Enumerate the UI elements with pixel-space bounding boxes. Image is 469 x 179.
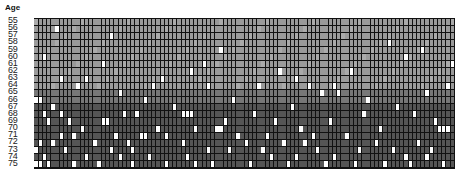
grid-cell [261, 54, 264, 60]
grid-cell [165, 118, 168, 124]
grid-cell [144, 83, 147, 89]
grid-cell [388, 61, 391, 67]
grid-row-age-58 [34, 39, 455, 46]
grid-cell [39, 111, 42, 117]
grid-cell [337, 161, 340, 167]
grid-cell [375, 161, 378, 167]
grid-cell [333, 111, 336, 117]
grid-cell [119, 19, 122, 25]
grid-cell [228, 104, 231, 110]
grid-cell [282, 83, 285, 89]
grid-cell [291, 19, 294, 25]
grid-cell [451, 33, 454, 39]
grid-cell [110, 140, 113, 146]
grid-cell [76, 133, 79, 139]
grid-cell [278, 126, 281, 132]
grid-cell [51, 161, 54, 167]
grid-cell [274, 161, 277, 167]
highlight-cell [354, 161, 357, 167]
grid-cell [249, 47, 252, 53]
grid-cell [375, 133, 378, 139]
grid-cell [85, 147, 88, 153]
grid-cell [228, 161, 231, 167]
grid-cell [392, 68, 395, 74]
grid-cell [64, 133, 67, 139]
grid-cell [257, 154, 260, 160]
grid-cell [261, 126, 264, 132]
grid-cell [215, 47, 218, 53]
highlight-cell [39, 161, 42, 167]
grid-cell [148, 147, 151, 153]
grid-cell [308, 154, 311, 160]
grid-cell [81, 19, 84, 25]
grid-cell [207, 26, 210, 32]
grid-cell [198, 104, 201, 110]
highlight-cell [358, 147, 361, 153]
grid-cell [60, 104, 63, 110]
grid-cell [404, 118, 407, 124]
highlight-cell [417, 140, 420, 146]
grid-cell [282, 111, 285, 117]
grid-cell [245, 111, 248, 117]
grid-cell [312, 118, 315, 124]
grid-cell [383, 133, 386, 139]
grid-cell [51, 83, 54, 89]
grid-cell [97, 126, 100, 132]
grid-cell [215, 140, 218, 146]
grid-cell [358, 90, 361, 96]
grid-cell [303, 33, 306, 39]
grid-cell [55, 68, 58, 74]
grid-cell [253, 47, 256, 53]
grid-cell [400, 40, 403, 46]
grid-cell [68, 111, 71, 117]
grid-cell [43, 19, 46, 25]
grid-cell [341, 111, 344, 117]
highlight-cell [43, 154, 46, 160]
highlight-cell [291, 104, 294, 110]
grid-cell [404, 47, 407, 53]
grid-cell [76, 118, 79, 124]
grid-cell [215, 40, 218, 46]
grid-cell [392, 90, 395, 96]
grid-cell [152, 104, 155, 110]
grid-cell [76, 90, 79, 96]
grid-cell [287, 26, 290, 32]
grid-cell [177, 90, 180, 96]
grid-cell [135, 40, 138, 46]
grid-cell [110, 54, 113, 60]
grid-cell [375, 83, 378, 89]
grid-cell [228, 97, 231, 103]
grid-cell [169, 104, 172, 110]
grid-cell [127, 61, 130, 67]
grid-cell [85, 161, 88, 167]
grid-cell [421, 104, 424, 110]
grid-cell [203, 147, 206, 153]
grid-cell [169, 90, 172, 96]
grid-cell [161, 54, 164, 60]
grid-cell [165, 40, 168, 46]
grid-cell [119, 47, 122, 53]
grid-cell [85, 54, 88, 60]
grid-cell [354, 133, 357, 139]
grid-cell [85, 47, 88, 53]
grid-cell [312, 61, 315, 67]
grid-cell [89, 61, 92, 67]
grid-cell [97, 97, 100, 103]
grid-cell [110, 133, 113, 139]
grid-row-age-56 [34, 25, 455, 32]
grid-cell [55, 47, 58, 53]
highlight-cell [409, 161, 412, 167]
grid-cell [119, 40, 122, 46]
grid-cell [404, 111, 407, 117]
grid-cell [425, 54, 428, 60]
grid-cell [266, 97, 269, 103]
grid-cell [400, 154, 403, 160]
grid-cell [47, 61, 50, 67]
grid-cell [76, 54, 79, 60]
grid-cell [270, 68, 273, 74]
grid-cell [140, 83, 143, 89]
grid-cell [324, 61, 327, 67]
grid-cell [198, 33, 201, 39]
grid-cell [123, 47, 126, 53]
grid-cell [97, 54, 100, 60]
